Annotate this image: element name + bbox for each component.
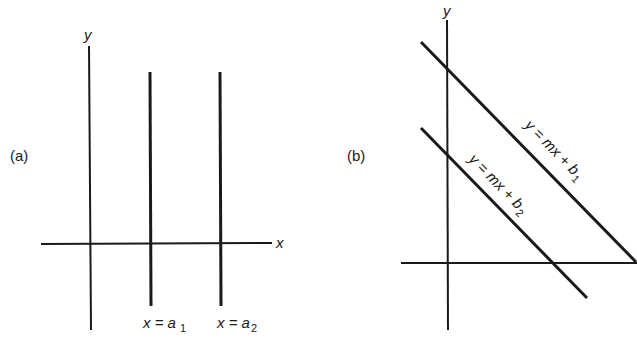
panel-a: (a) y x x = a1 x = a2	[10, 26, 284, 334]
diagram-canvas: (a) y x x = a1 x = a2 (b) y y = mx + b1 …	[0, 0, 637, 354]
label-x-eq-a1: x = a1	[142, 314, 186, 334]
panel-b-y-axis-label: y	[442, 2, 452, 19]
line-b1	[421, 42, 636, 262]
label-x-eq-a2: x = a2	[216, 314, 257, 334]
panel-a-x-axis-label: x	[275, 234, 284, 251]
panel-a-y-axis-label: y	[83, 26, 93, 43]
panel-b-tag: (b)	[347, 147, 365, 164]
vertical-line-a1	[150, 72, 151, 306]
vertical-line-a2	[220, 72, 221, 306]
panel-b: (b) y y = mx + b1 y = mx + b2	[347, 2, 637, 330]
panel-a-tag: (a)	[10, 147, 28, 164]
panel-b-y-axis	[447, 20, 448, 330]
panel-a-y-axis	[89, 46, 91, 330]
label-y-eq-mx-b2: y = mx + b2	[463, 149, 532, 219]
label-y-eq-mx-b1: y = mx + b1	[519, 115, 588, 185]
panel-a-x-axis	[41, 243, 272, 244]
